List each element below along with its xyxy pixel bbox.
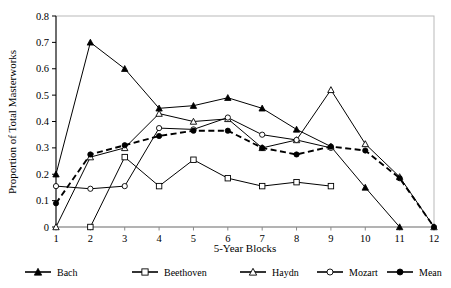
data-point-marker-filled-circle bbox=[53, 201, 58, 206]
y-tick-label: 0 bbox=[44, 222, 49, 233]
data-point-marker-open-square bbox=[294, 179, 299, 184]
x-tick-label: 1 bbox=[53, 233, 58, 244]
y-tick-label: 0.4 bbox=[36, 116, 50, 127]
data-point-marker-filled-circle bbox=[397, 176, 402, 181]
x-tick-label: 5 bbox=[191, 233, 196, 244]
y-tick-label: 0.3 bbox=[36, 142, 49, 153]
data-point-marker-open-square bbox=[142, 269, 148, 275]
data-point-marker-open-square bbox=[191, 157, 196, 162]
data-point-marker-open-circle bbox=[225, 115, 230, 120]
data-point-marker-open-circle bbox=[260, 132, 265, 137]
data-point-marker-filled-circle bbox=[122, 143, 127, 148]
x-tick-label: 9 bbox=[328, 233, 333, 244]
x-tick-label: 10 bbox=[360, 233, 371, 244]
data-point-marker-open-square bbox=[328, 183, 333, 188]
data-point-marker-filled-circle bbox=[363, 148, 368, 153]
y-tick-label: 0.5 bbox=[36, 90, 49, 101]
x-tick-label: 12 bbox=[429, 233, 440, 244]
data-point-marker-filled-circle bbox=[156, 133, 161, 138]
x-tick-label: 11 bbox=[395, 233, 405, 244]
x-tick-label: 3 bbox=[122, 233, 127, 244]
data-point-marker-open-square bbox=[225, 175, 230, 180]
data-point-marker-open-square bbox=[122, 154, 127, 159]
y-tick-label: 0.7 bbox=[36, 37, 49, 48]
x-tick-label: 2 bbox=[88, 233, 93, 244]
data-point-marker-open-circle bbox=[294, 137, 299, 142]
chart-figure: 00.10.20.30.40.50.60.70.8 12345678910111… bbox=[0, 0, 451, 288]
data-point-marker-filled-circle bbox=[431, 224, 436, 229]
data-point-marker-filled-circle bbox=[328, 144, 333, 149]
y-tick-label: 0.1 bbox=[36, 195, 49, 206]
data-point-marker-open-circle bbox=[53, 183, 58, 188]
y-tick-label: 0.8 bbox=[36, 11, 49, 22]
data-point-marker-filled-circle bbox=[397, 269, 403, 275]
x-tick-label: 8 bbox=[294, 233, 299, 244]
legend-label: Haydn bbox=[272, 267, 299, 278]
data-point-marker-filled-circle bbox=[225, 128, 230, 133]
data-point-marker-open-square bbox=[259, 183, 264, 188]
y-tick-label: 0.6 bbox=[36, 63, 49, 74]
legend-label: Beethoven bbox=[164, 267, 207, 278]
data-point-marker-open-circle bbox=[327, 269, 333, 275]
y-axis-title: Proportion of Total Masterworks bbox=[6, 50, 18, 194]
data-point-marker-open-square bbox=[156, 183, 161, 188]
data-point-marker-open-circle bbox=[122, 183, 127, 188]
x-axis-title: 5-Year Blocks bbox=[214, 242, 277, 254]
legend-label: Mean bbox=[419, 267, 442, 278]
legend-label: Mozart bbox=[349, 267, 378, 278]
data-point-marker-open-square bbox=[88, 224, 93, 229]
line-chart: 00.10.20.30.40.50.60.70.8 12345678910111… bbox=[0, 0, 451, 288]
x-tick-label: 4 bbox=[156, 233, 162, 244]
y-tick-label: 0.2 bbox=[36, 169, 49, 180]
legend-label: Bach bbox=[57, 267, 78, 278]
data-point-marker-filled-circle bbox=[294, 152, 299, 157]
data-point-marker-open-circle bbox=[88, 186, 93, 191]
data-point-marker-filled-circle bbox=[191, 128, 196, 133]
data-point-marker-filled-circle bbox=[88, 152, 93, 157]
data-point-marker-filled-circle bbox=[260, 145, 265, 150]
data-point-marker-open-circle bbox=[156, 125, 161, 130]
